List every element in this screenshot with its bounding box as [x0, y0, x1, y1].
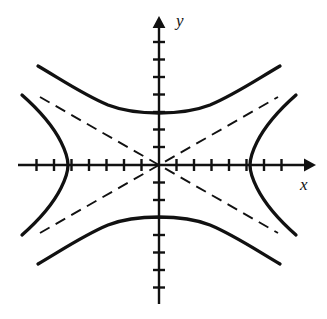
- plot-canvas: [0, 0, 327, 319]
- y-axis-arrowhead: [153, 16, 166, 28]
- x-axis-arrowhead: [304, 159, 316, 172]
- hyperbola-figure: y x: [0, 0, 327, 319]
- x-axis-label: x: [300, 176, 308, 193]
- y-axis-label: y: [176, 12, 184, 29]
